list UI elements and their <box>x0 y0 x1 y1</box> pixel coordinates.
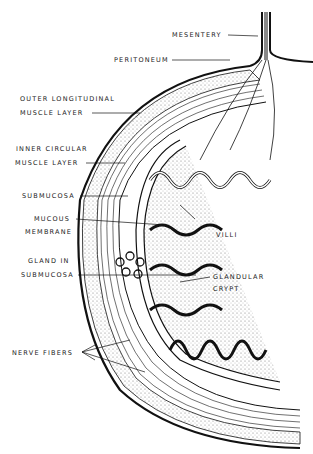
mucous-membrane-label-line2: MEMBRANE <box>25 228 72 236</box>
villi-label: VILLI <box>216 231 238 239</box>
mucous-membrane-label-line1: MUCOUS <box>34 215 70 223</box>
peritoneum-label: PERITONEUM <box>114 56 169 64</box>
inner-circular-label-line2: MUSCLE LAYER <box>15 159 79 167</box>
glandular-crypt-label-line1: GLANDULAR <box>213 273 264 281</box>
outer-longitudinal-label-line1: OUTER LONGITUDINAL <box>20 95 115 103</box>
outer-longitudinal-label-line2: MUSCLE LAYER <box>20 109 84 117</box>
gland-in-submucosa-label-line2: SUBMUCOSA <box>21 271 74 279</box>
submucosa-label: SUBMUCOSA <box>22 192 75 200</box>
nerve-fibers-label: NERVE FIBERS <box>12 349 73 357</box>
mesentery-label: MESENTERY <box>172 31 222 39</box>
glandular-crypt-label-line2: CRYPT <box>213 285 240 293</box>
anatomy-illustration <box>0 0 313 454</box>
gland-in-submucosa-label-line1: GLAND IN <box>28 257 70 265</box>
intestine-cross-section-diagram: MESENTERY PERITONEUM OUTER LONGITUDINAL … <box>0 0 313 454</box>
inner-circular-label-line1: INNER CIRCULAR <box>16 145 88 153</box>
